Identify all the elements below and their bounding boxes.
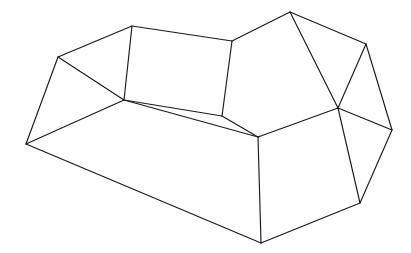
drawing-canvas	[0, 0, 411, 253]
wireframe-polyhedron-illustration	[0, 0, 411, 253]
canvas-background	[0, 0, 411, 253]
